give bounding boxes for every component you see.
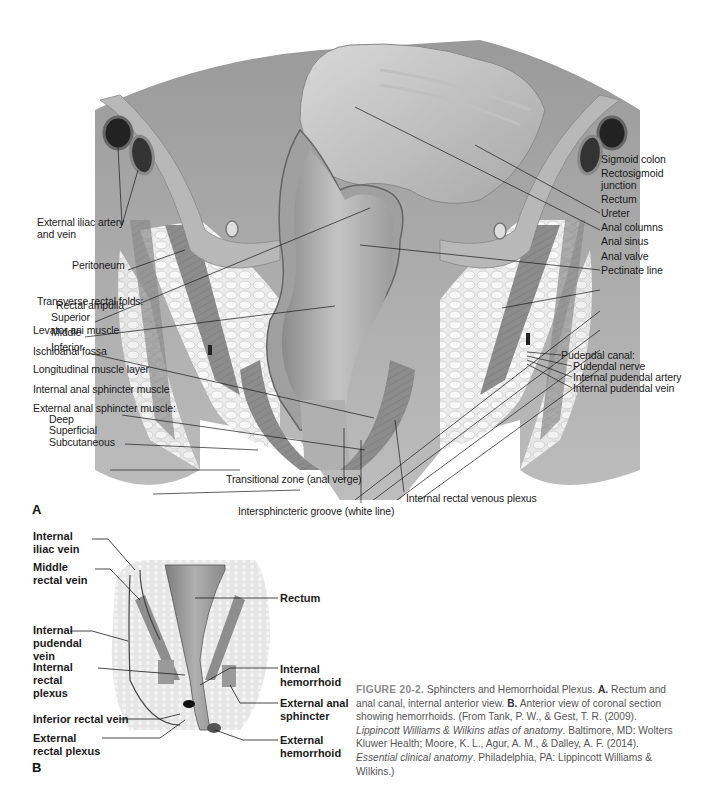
- label-external-rectal-plexus: External rectal plexus: [33, 732, 103, 758]
- label-inferior-rectal-vein: Inferior rectal vein: [33, 713, 128, 726]
- label-internal-rectal-venous-plexus: Internal rectal venous plexus: [406, 492, 537, 504]
- label-rectal-ampulla: Rectal ampulla: [56, 299, 124, 311]
- label-rectum-b: Rectum: [280, 592, 320, 605]
- label-ureter: Ureter: [601, 207, 630, 219]
- label-rectosigmoid-junction: junction: [601, 179, 636, 191]
- panel-b-letter: B: [32, 760, 41, 775]
- label-subcutaneous: Subcutaneous: [49, 436, 115, 448]
- label-external-iliac-artery: External iliac artery: [37, 216, 124, 228]
- label-external-iliac-vein: and vein: [37, 228, 76, 240]
- caption-b-marker: B.: [507, 698, 517, 709]
- label-transitional-zone: Transitional zone (anal verge): [226, 473, 362, 485]
- label-superficial: Superficial: [49, 424, 97, 436]
- label-middle-rectal-vein: Middle rectal vein: [33, 561, 95, 587]
- label-internal-pudendal-vein-b: Internal pudendal vein: [33, 624, 103, 663]
- caption-title: Sphincters and Hemorrhoidal Plexus.: [427, 684, 595, 695]
- label-internal-hemorrhoid: Internal hemorrhoid: [280, 663, 342, 689]
- panel-a-letter: A: [32, 502, 41, 517]
- label-ischioanal-fossa: Ischioanal fossa: [33, 345, 107, 357]
- label-intersphincteric-groove: Intersphincteric groove (white line): [238, 505, 394, 517]
- label-peritoneum: Peritoneum: [72, 259, 125, 271]
- label-longitudinal-muscle-layer: Longitudinal muscle layer: [33, 363, 149, 375]
- figure-caption: FIGURE 20-2. Sphincters and Hemorrhoidal…: [356, 683, 674, 778]
- label-sigmoid-colon: Sigmoid colon: [601, 153, 666, 165]
- label-internal-rectal-plexus: Internal rectal plexus: [33, 661, 99, 700]
- caption-a-marker: A.: [598, 684, 608, 695]
- label-external-hemorrhoid: External hemorrhoid: [280, 734, 342, 760]
- label-internal-iliac-vein: Internal iliac vein: [33, 530, 93, 556]
- label-internal-anal-sphincter: Internal anal sphincter muscle: [33, 383, 170, 395]
- caption-figure-id: FIGURE 20-2.: [356, 684, 424, 695]
- label-levator-ani: Levator ani muscle: [33, 324, 119, 336]
- label-external-anal-sphincter-b: External anal sphincter: [280, 697, 350, 723]
- label-anal-sinus: Anal sinus: [601, 235, 648, 247]
- label-internal-pudendal-vein: Internal pudendal vein: [573, 382, 674, 394]
- label-superior-fold: Superior: [51, 311, 90, 323]
- caption-ref1-title: Lippincott Williams & Wilkins atlas of a…: [356, 725, 562, 736]
- label-rectum: Rectum: [601, 193, 637, 205]
- label-anal-valve: Anal valve: [601, 250, 648, 262]
- label-pectinate-line: Pectinate line: [601, 264, 663, 276]
- anatomy-figure: External iliac artery and vein Peritoneu…: [0, 0, 707, 792]
- caption-ref2-title: Essential clinical anatomy: [356, 752, 473, 763]
- label-rectosigmoid: Rectosigmoid: [601, 167, 663, 179]
- label-anal-columns: Anal columns: [601, 221, 663, 233]
